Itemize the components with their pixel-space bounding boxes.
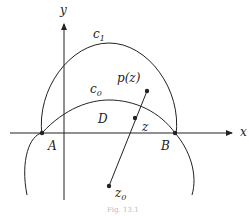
curve-c1 <box>41 43 176 135</box>
x-axis-label: x <box>240 125 247 139</box>
diagram-canvas: x y c1 c0 p(z) D z A B z0 Fig. 13.1 <box>0 0 249 216</box>
region-D-label: D <box>97 112 108 126</box>
point-pz-label: p(z) <box>117 71 141 85</box>
curve-c0-label: c0 <box>90 82 102 98</box>
y-axis-label: y <box>59 3 67 17</box>
point-z0 <box>107 184 111 188</box>
point-B-label: B <box>160 139 170 153</box>
segment-z0-pz <box>109 91 147 186</box>
point-z <box>133 116 137 120</box>
figure-caption: Fig. 13.1 <box>107 206 139 214</box>
point-B <box>173 131 177 135</box>
point-A-label: A <box>47 139 57 153</box>
point-pz <box>145 89 149 93</box>
point-A <box>40 131 44 135</box>
curve-c1-label: c1 <box>93 27 105 43</box>
point-z-label: z <box>141 120 149 134</box>
point-z0-label: z0 <box>114 186 126 202</box>
